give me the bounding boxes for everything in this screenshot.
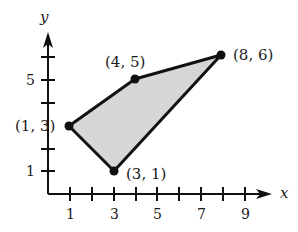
y-axis-label: y xyxy=(39,8,49,26)
x-tick-label-9: 9 xyxy=(241,206,250,222)
vertex-point-4-5 xyxy=(131,75,140,84)
x-tick-label-7: 7 xyxy=(197,206,206,222)
vertex-point-8-6 xyxy=(217,51,226,60)
x-tick-label-1: 1 xyxy=(66,206,75,222)
x-tick-label-3: 3 xyxy=(110,206,119,222)
vertex-point-3-1 xyxy=(110,167,119,176)
vertex-label-1-3: (1, 3) xyxy=(15,117,55,135)
coordinate-diagram: y x 1 5 1 3 5 7 9 (1, 3) (4, 5) (8, 6) (… xyxy=(0,0,298,232)
vertex-label-4-5: (4, 5) xyxy=(105,53,145,71)
x-axis xyxy=(48,187,262,201)
x-axis-label: x xyxy=(280,184,289,202)
vertex-label-3-1: (3, 1) xyxy=(126,165,166,183)
vertex-label-8-6: (8, 6) xyxy=(233,46,273,64)
vertex-point-1-3 xyxy=(65,122,74,131)
x-tick-label-5: 5 xyxy=(153,206,162,222)
shaded-quadrilateral xyxy=(69,55,221,171)
y-tick-label-5: 5 xyxy=(26,72,35,88)
y-tick-label-1: 1 xyxy=(26,163,35,179)
